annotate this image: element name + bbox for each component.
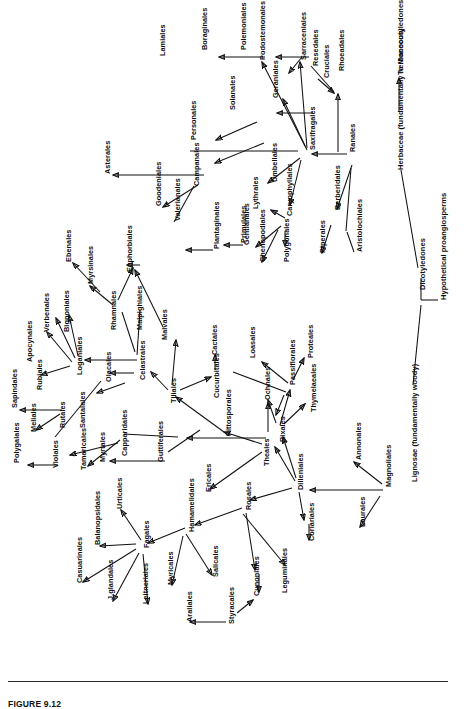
node-tamaricales[interactable]: Tamaricales [80, 428, 87, 470]
node-boraginales[interactable]: Boraginales [201, 8, 208, 50]
node-passiflorales[interactable]: Passiflorales [289, 339, 296, 385]
node-lythrales[interactable]: Lythrales [252, 176, 259, 209]
node-sarraceniales[interactable]: Sarraceniales [300, 12, 307, 60]
node-coriariales[interactable]: Coriariales [308, 503, 315, 541]
node-bixales[interactable]: Bixales [279, 416, 286, 442]
node-rhamnales[interactable]: Rhamnales [110, 291, 117, 330]
node-ebenales[interactable]: Ebenales [65, 230, 72, 262]
node-rosales[interactable]: Rosales [245, 482, 252, 510]
node-cucurbitales[interactable]: Cucurbitales [213, 353, 220, 398]
node-urticales[interactable]: Urticales [116, 478, 123, 509]
node-leguminales[interactable]: Leguminales [281, 548, 288, 593]
node-myricales[interactable]: Myricales [167, 551, 174, 585]
node-juglandales[interactable]: J.glandales [107, 560, 114, 600]
node-araliales[interactable]: Araliales [186, 591, 193, 622]
node-proteales[interactable]: Proteales [307, 325, 314, 358]
node-balanopsidales[interactable]: Balanopsidales [94, 491, 101, 545]
figure-caption: FIGURE 9.12 [8, 699, 61, 709]
node-ranales[interactable]: Ranales [349, 124, 356, 152]
node-olacales[interactable]: Olacales [105, 352, 112, 382]
node-cactales[interactable]: Cactales [211, 325, 218, 355]
node-fagales[interactable]: Fagales [143, 520, 150, 548]
node-dicotyledones: Dicotyledones [419, 238, 427, 290]
node-hypothetical-proangiosperms: Hypothetical proangiosperms [440, 193, 448, 300]
node-asterales[interactable]: Asterales [104, 141, 111, 174]
node-primulales[interactable]: Primulales [240, 206, 247, 243]
node-sapindales[interactable]: Sapindales [11, 369, 18, 408]
node-meliales[interactable]: Meliales [30, 403, 37, 432]
node-styracales[interactable]: Styracales [228, 587, 235, 624]
figure-canvas: Podostemonales Sarraceniales Resedales C… [0, 0, 472, 709]
node-laurales[interactable]: Laurales [359, 497, 366, 527]
node-piperales[interactable]: Piperales [319, 220, 326, 253]
node-dilleniales[interactable]: Dilleniales [297, 453, 304, 490]
node-cruciales[interactable]: Cruciales [323, 45, 330, 78]
node-polygonales[interactable]: Polygonales [283, 218, 290, 262]
node-lamiales[interactable]: Lamiales [159, 24, 166, 56]
node-tiliales[interactable]: Tiliales [170, 378, 177, 403]
node-myrtales[interactable]: Myrtales [99, 432, 106, 462]
node-santalales[interactable]: Santalales [79, 391, 86, 428]
node-caryophyllales[interactable]: Caryophyllales [286, 163, 293, 216]
node-geraniales[interactable]: Geraniales [272, 60, 279, 98]
node-solanales[interactable]: Solanales [229, 75, 236, 110]
node-salicales[interactable]: Salicales [212, 545, 219, 577]
node-annonales[interactable]: Annonales [355, 422, 362, 460]
node-umbellales[interactable]: Umbellales [271, 143, 278, 182]
node-loasales[interactable]: Loasales [249, 326, 256, 358]
node-leitneriales[interactable]: Leitneriales [142, 563, 149, 604]
node-guttiferales[interactable]: Guttiferales [157, 421, 164, 462]
node-hamamelidales[interactable]: Hamamelidales [188, 478, 195, 532]
node-polemoniales[interactable]: Polemoniales [240, 2, 247, 50]
node-aristolochiales[interactable]: Aristolochiales [356, 199, 363, 252]
node-resedales[interactable]: Resedales [312, 29, 319, 66]
node-thymelaeales[interactable]: Thymelaeales [310, 364, 317, 412]
node-rhoeadales[interactable]: Rhoeadales [338, 30, 345, 71]
node-verbenales[interactable]: Verbenales [43, 293, 50, 332]
node-cunoniales[interactable]: Cunoniales [253, 556, 260, 596]
node-euphorbiales[interactable]: Euphorbiales [126, 225, 133, 272]
node-podostemonales[interactable]: Podostemonales [259, 1, 266, 60]
node-myrsinales[interactable]: Myrsinales [87, 246, 94, 284]
node-plantaginales[interactable]: Plantaginales [213, 201, 220, 249]
node-saxifragales[interactable]: Saxifragales [309, 106, 316, 150]
node-goodeniales[interactable]: Goodeniales [155, 162, 162, 206]
node-chenopodiales[interactable]: Chenopodiales [259, 209, 266, 262]
node-personales[interactable]: Personales [190, 101, 197, 140]
node-magnoliales[interactable]: Magnoliales [385, 445, 392, 487]
node-polygalales[interactable]: Polygalales [13, 422, 20, 463]
node-ericales[interactable]: Ericales [205, 464, 212, 492]
node-malpighiales[interactable]: Malpighiales [136, 286, 143, 330]
node-rubiales[interactable]: Rubiales [36, 359, 43, 390]
node-loganiales[interactable]: Loganiales [76, 336, 83, 375]
node-celastrales[interactable]: Celastrales [139, 341, 146, 381]
node-theales[interactable]: Theales [263, 438, 270, 466]
node-violales[interactable]: Violales [52, 440, 59, 468]
node-ochnales[interactable]: Ochnales [264, 367, 271, 400]
node-rutales[interactable]: Rutales [59, 401, 66, 428]
node-apocynales[interactable]: Apocynales [26, 321, 33, 362]
node-pittosporales[interactable]: Pittosporales [225, 389, 232, 436]
node-campanales[interactable]: Campanales [193, 143, 200, 187]
node-herbaceae: Herbaceae (fundamentally herbaceous) [397, 28, 405, 170]
node-casuarinales[interactable]: Casuarinales [76, 537, 83, 583]
node-berberidales[interactable]: Berberidales [334, 165, 341, 210]
node-valerianales[interactable]: Valerianales [174, 178, 181, 221]
node-lignosae: Lignosae (fundamentally woody) [411, 364, 419, 482]
caption-divider [8, 681, 448, 682]
node-bignoniales[interactable]: Bignoniales [63, 290, 70, 332]
node-malvales[interactable]: Malvales [161, 309, 168, 340]
node-capparidales[interactable]: Capparidales [121, 410, 128, 456]
